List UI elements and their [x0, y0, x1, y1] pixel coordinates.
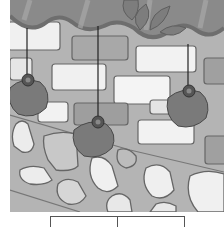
persimmon-wall-illustration — [10, 0, 224, 212]
answer-cell-left[interactable] — [51, 217, 117, 227]
illustration-svg — [10, 0, 224, 212]
answer-table — [50, 216, 185, 227]
answer-cell-right[interactable] — [117, 217, 184, 227]
